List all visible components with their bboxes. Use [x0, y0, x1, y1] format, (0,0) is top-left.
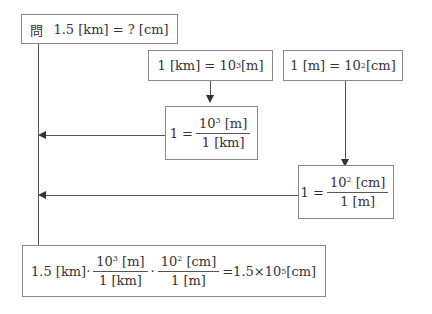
arrow-fact-m-down — [345, 80, 346, 160]
fraction: 103 [m] 1 [km] — [93, 254, 147, 287]
arrow-m-to-main — [44, 195, 300, 196]
fact-km-box: 1 [km] = 103 [m] — [148, 50, 273, 81]
ratio-km-box: 1 = 103 [m] 1 [km] — [165, 106, 258, 160]
main-vertical-line — [38, 35, 39, 246]
question-box: 問 1.5 [km] = ? [cm] — [21, 14, 178, 44]
ratio-m-box: 1 = 102 [cm] 1 [m] — [298, 165, 394, 219]
fraction: 103 [m] 1 [km] — [196, 116, 250, 149]
arrowhead-down-icon — [206, 95, 214, 103]
arrowhead-left-icon — [38, 131, 46, 139]
fact-m-box: 1 [m] = 102 [cm] — [283, 50, 403, 81]
arrow-km-to-main — [44, 135, 166, 136]
fraction: 102 [cm] 1 [m] — [158, 254, 220, 287]
arrow-fact-km-down — [210, 80, 211, 96]
question-prefix: 問 — [30, 20, 43, 39]
fraction: 102 [cm] 1 [m] — [327, 175, 389, 208]
question-text: 1.5 [km] = ? [cm] — [53, 22, 168, 37]
result-box: 1.5 [km]· 103 [m] 1 [km] · 102 [cm] 1 [m… — [22, 245, 326, 297]
arrowhead-left-icon — [38, 191, 46, 199]
